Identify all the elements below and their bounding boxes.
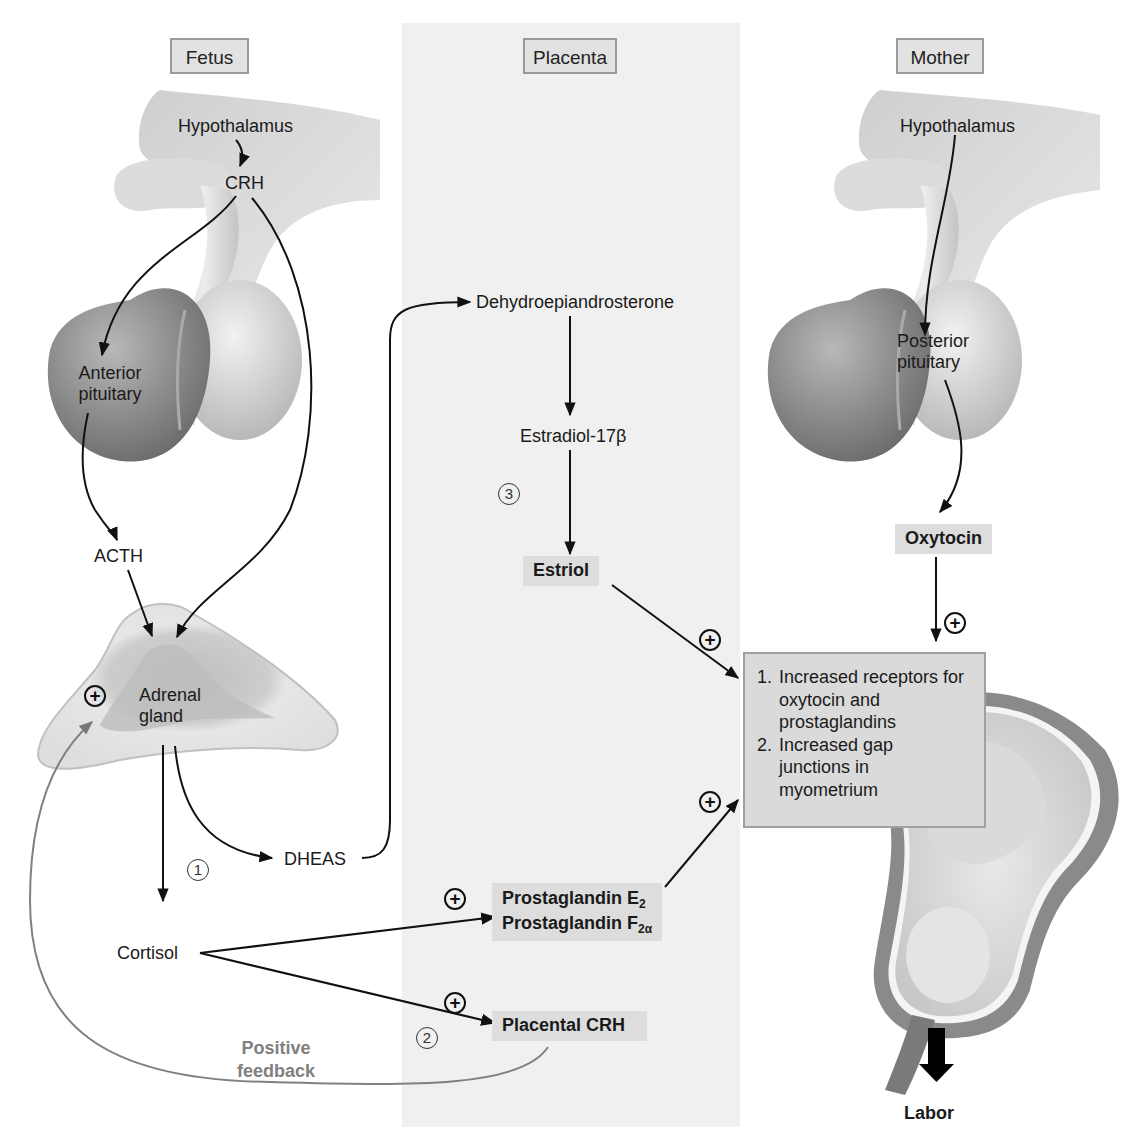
acth-label: ACTH — [94, 546, 143, 567]
column-header-mother: Mother — [896, 38, 984, 74]
maternal-hypothalamus-label: Hypothalamus — [900, 116, 1015, 137]
circled-plus-icon: + — [699, 629, 721, 651]
prostaglandins-label: Prostaglandin E2 Prostaglandin F2α — [492, 883, 662, 941]
circled-plus-icon: + — [699, 791, 721, 813]
step-2-marker: 2 — [416, 1027, 438, 1049]
effect-item-2: 2. Increased gap junctions in myometrium — [757, 734, 976, 802]
prostaglandin-f2a-label: Prostaglandin F2α — [502, 912, 652, 937]
anterior-pituitary-line2: pituitary — [70, 384, 150, 405]
column-header-placenta: Placenta — [523, 38, 617, 74]
estradiol-label: Estradiol-17β — [520, 426, 626, 447]
oxytocin-label: Oxytocin — [895, 524, 992, 554]
adrenal-gland-line2: gland — [139, 706, 201, 727]
dheas-label: DHEAS — [284, 849, 346, 870]
cortisol-label: Cortisol — [117, 943, 178, 964]
circled-plus-icon: + — [84, 685, 106, 707]
column-header-fetus: Fetus — [170, 38, 249, 74]
fetal-pituitary-illustration — [48, 90, 380, 462]
step-1-marker: 1 — [187, 859, 209, 881]
labor-label: Labor — [904, 1103, 954, 1124]
posterior-pituitary-line1: Posterior — [897, 331, 969, 352]
positive-feedback-line2: feedback — [237, 1060, 315, 1083]
crh-label: CRH — [225, 173, 264, 194]
anterior-pituitary-line1: Anterior — [70, 363, 150, 384]
uterine-effects-box: 1. Increased receptors for oxytocin and … — [743, 652, 986, 828]
positive-feedback-line1: Positive — [237, 1037, 315, 1060]
adrenal-gland-label: Adrenal gland — [139, 685, 201, 726]
circled-plus-icon: + — [444, 888, 466, 910]
estriol-label: Estriol — [523, 556, 599, 586]
dhea-label: Dehydroepiandrosterone — [476, 292, 674, 313]
posterior-pituitary-label: Posterior pituitary — [897, 331, 969, 372]
anterior-pituitary-label: Anterior pituitary — [70, 363, 150, 404]
placental-crh-label: Placental CRH — [492, 1011, 647, 1041]
adrenal-gland-line1: Adrenal — [139, 685, 201, 706]
fetal-hypothalamus-label: Hypothalamus — [178, 116, 293, 137]
maternal-pituitary-illustration — [768, 90, 1100, 462]
circled-plus-icon: + — [944, 612, 966, 634]
positive-feedback-label: Positive feedback — [237, 1037, 315, 1082]
step-3-marker: 3 — [498, 483, 520, 505]
posterior-pituitary-line2: pituitary — [897, 352, 969, 373]
circled-plus-icon: + — [444, 992, 466, 1014]
effect-item-1: 1. Increased receptors for oxytocin and … — [757, 666, 976, 734]
prostaglandin-e2-label: Prostaglandin E2 — [502, 887, 652, 912]
